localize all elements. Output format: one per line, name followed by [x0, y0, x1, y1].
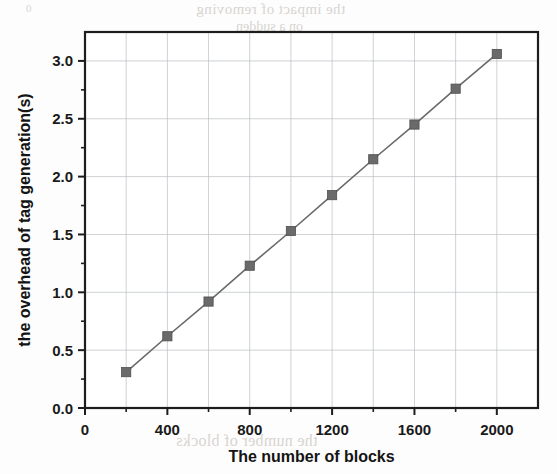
y-axis-tick-labels: 0.00.51.01.52.02.53.0	[52, 52, 73, 416]
svg-text:1.0: 1.0	[52, 284, 73, 301]
plot-background	[85, 32, 538, 408]
svg-text:3.0: 3.0	[52, 52, 73, 69]
svg-text:1.5: 1.5	[52, 226, 73, 243]
svg-text:2.0: 2.0	[52, 168, 73, 185]
svg-text:2000: 2000	[480, 421, 513, 438]
svg-text:1600: 1600	[398, 421, 431, 438]
svg-text:0.5: 0.5	[52, 342, 73, 359]
svg-text:1200: 1200	[315, 421, 348, 438]
x-axis-tick-labels: 0400800120016002000	[81, 421, 514, 438]
chart-figure: the impact of removing on a sudden 2000 …	[0, 0, 557, 474]
svg-text:0.0: 0.0	[52, 400, 73, 417]
x-axis-title: The number of blocks	[228, 448, 394, 465]
svg-text:2.5: 2.5	[52, 110, 73, 127]
line-chart: 0.00.51.01.52.02.53.0 040080012001600200…	[0, 0, 557, 474]
svg-text:400: 400	[155, 421, 180, 438]
svg-text:800: 800	[237, 421, 262, 438]
y-axis-title: the overhead of tag generation(s)	[16, 93, 33, 346]
svg-text:0: 0	[81, 421, 89, 438]
